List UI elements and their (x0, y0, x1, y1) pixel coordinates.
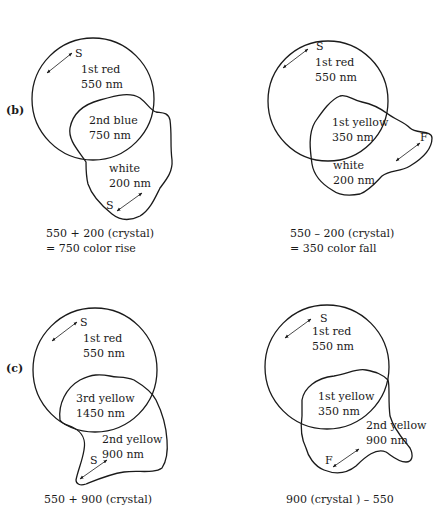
vibration-arrow-crystal (396, 143, 420, 161)
vibration-label-crystal: F (420, 131, 428, 144)
overlap-label-order: 3rd yellow (76, 392, 135, 405)
caption-line-1: 900 (crystal ) – 550 (286, 493, 394, 506)
caption-line-2: = 350 color fall (290, 242, 377, 255)
vibration-label-circle: S (75, 47, 83, 60)
vibration-arrow-crystal (333, 449, 359, 467)
overlap-label-order: 1st yellow (318, 390, 375, 403)
vibration-arrow-crystal (117, 193, 142, 211)
interference-color-diagram: (b) S 1st red 550 nm 2nd blue 750 nm whi… (0, 0, 433, 506)
crystal-label-nm: 200 nm (109, 177, 152, 190)
vibration-label-crystal: S (90, 454, 98, 467)
circle-label-nm: 550 nm (312, 340, 355, 353)
vibration-arrow-circle (52, 322, 77, 341)
vibration-arrow-circle (283, 49, 308, 68)
caption-line-1: 550 – 200 (crystal) (290, 227, 394, 240)
overlap-label-nm: 350 nm (332, 131, 375, 144)
panel-b-left: (b) S 1st red 550 nm 2nd blue 750 nm whi… (6, 38, 172, 255)
circle-label-nm: 550 nm (81, 78, 124, 91)
circle-label-nm: 550 nm (83, 347, 126, 360)
panel-c-left: (c) S 1st red 550 nm 3rd yellow 1450 nm … (6, 308, 167, 506)
caption-line-1: 550 + 200 (crystal) (46, 227, 154, 240)
circle-label-nm: 550 nm (315, 71, 358, 84)
overlap-label-nm: 750 nm (89, 129, 132, 142)
crystal-label-nm: 900 nm (366, 434, 409, 447)
vibration-label-crystal: F (325, 454, 333, 467)
vibration-label-circle: S (80, 316, 88, 329)
panel-c-right: S 1st red 550 nm 1st yellow 350 nm 2nd y… (265, 305, 427, 506)
overlap-label-nm: 350 nm (318, 405, 361, 418)
overlap-label-order: 1st yellow (332, 116, 389, 129)
crystal-label-nm: 900 nm (102, 448, 145, 461)
vibration-label-crystal: S (106, 199, 114, 212)
panel-label-c: (c) (6, 362, 23, 375)
panel-b-right: S 1st red 550 nm 1st yellow 350 nm white… (268, 40, 432, 255)
vibration-label-circle: S (316, 40, 324, 53)
circle-label-order: 1st red (83, 332, 122, 345)
vibration-arrow-circle (47, 53, 72, 73)
vibration-arrow-circle (285, 319, 311, 338)
crystal-label-nm: 200 nm (333, 174, 376, 187)
caption-line-2: = 750 color rise (46, 242, 136, 255)
crystal-label-order: 2nd yellow (366, 419, 427, 432)
circle-label-order: 1st red (81, 63, 120, 76)
panel-label-b: (b) (6, 104, 24, 117)
circle-label-order: 1st red (312, 325, 351, 338)
crystal-label-order: white (333, 159, 364, 172)
overlap-label-order: 2nd blue (89, 114, 138, 127)
crystal-label-order: white (109, 162, 140, 175)
overlap-label-nm: 1450 nm (76, 407, 126, 420)
circle-label-order: 1st red (315, 56, 354, 69)
crystal-label-order: 2nd yellow (102, 433, 163, 446)
caption-line-1: 550 + 900 (crystal) (44, 493, 152, 506)
vibration-label-circle: S (320, 312, 328, 325)
